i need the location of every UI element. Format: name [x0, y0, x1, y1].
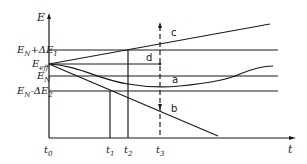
curve-label-b: b: [171, 104, 177, 114]
tick-t2: t2: [124, 145, 133, 159]
curve-b: [49, 64, 218, 136]
y-axis-label: E: [37, 13, 45, 23]
label-en: EN: [37, 71, 50, 85]
t3-down-arrow-icon: [158, 104, 162, 110]
subscript-1: 1: [53, 50, 57, 58]
subscript-0: 0: [48, 150, 52, 158]
y-axis-arrow-icon: [47, 13, 51, 19]
subscript-2: 2: [48, 91, 52, 99]
label-en-minus-de2: EN-ΔE2: [17, 86, 53, 100]
t3-up-arrow-icon: [158, 22, 162, 28]
curve-label-a: a: [172, 75, 178, 85]
tick-t1: t1: [106, 145, 115, 159]
tick-t0: t0: [44, 145, 53, 159]
subscript-2: 2: [128, 150, 132, 158]
subscript-3: 3: [160, 150, 164, 158]
d-endpoint-dot: [159, 63, 162, 66]
curve-label-c: c: [171, 28, 177, 38]
minus-delta-e: -ΔE: [30, 85, 48, 96]
curve-label-d: d: [146, 53, 152, 63]
subscript-n: N: [44, 76, 50, 84]
subscript-1: 1: [110, 150, 114, 158]
y-axis-label-text: E: [37, 11, 45, 24]
x-axis-label-text: t: [288, 143, 292, 156]
label-en-plus-de1: EN+ΔE1: [17, 45, 58, 59]
tick-t3: t3: [156, 145, 165, 159]
x-axis-label: t: [288, 145, 292, 155]
x-axis-arrow-icon: [289, 136, 296, 140]
plus-delta-e: +ΔE: [30, 44, 53, 55]
